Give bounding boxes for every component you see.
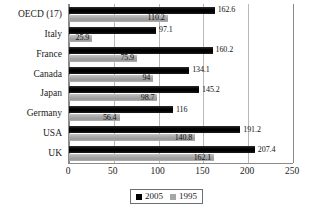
bar-group: 11656.4 xyxy=(69,103,293,123)
bar-track: 162.1 xyxy=(69,154,293,161)
bar-group: 97.125.9 xyxy=(69,24,293,44)
legend-swatch xyxy=(170,194,176,200)
x-axis-tick-labels: 050100150200250 xyxy=(0,165,319,179)
bar-track: 25.9 xyxy=(69,35,293,42)
bar-2005 xyxy=(69,106,173,113)
category-label: OECD (17) xyxy=(18,9,62,19)
bar-group: 207.4162.1 xyxy=(69,143,293,163)
bar-value-label: 75.9 xyxy=(120,54,134,62)
bar-track: 160.2 xyxy=(69,47,293,54)
category-axis-labels: OECD (17)ItalyFranceCanadaJapanGermanyUS… xyxy=(0,4,65,163)
bar-track: 75.9 xyxy=(69,55,293,62)
bar-2005 xyxy=(69,86,199,93)
bar-value-label: 162.6 xyxy=(218,6,236,14)
bar-value-label: 162.1 xyxy=(194,154,212,162)
legend-swatch xyxy=(136,194,142,200)
bar-track: 110.2 xyxy=(69,15,293,22)
bar-1995 xyxy=(69,154,214,161)
bar-value-label: 145.2 xyxy=(202,86,220,94)
bar-2005 xyxy=(69,67,189,74)
bar-value-label: 191.2 xyxy=(243,126,261,134)
bar-chart: 162.6110.297.125.9160.275.9134.194145.29… xyxy=(0,0,319,215)
bar-group: 162.6110.2 xyxy=(69,4,293,24)
x-tick-label: 50 xyxy=(108,165,118,177)
bar-1995 xyxy=(69,75,153,82)
category-label: USA xyxy=(43,128,62,138)
bar-track: 94 xyxy=(69,75,293,82)
category-label: France xyxy=(36,49,62,59)
bar-track: 145.2 xyxy=(69,86,293,93)
bar-track: 162.6 xyxy=(69,7,293,14)
bar-2005 xyxy=(69,146,255,153)
category-label: Germany xyxy=(27,108,62,118)
x-tick-label: 250 xyxy=(285,165,299,177)
bar-value-label: 56.4 xyxy=(103,114,117,122)
gridline-250 xyxy=(293,4,294,163)
bar-value-label: 160.2 xyxy=(216,46,234,54)
bar-value-label: 134.1 xyxy=(192,66,210,74)
bar-track: 56.4 xyxy=(69,114,293,121)
x-tick-label: 100 xyxy=(150,165,164,177)
plot-area: 162.6110.297.125.9160.275.9134.194145.29… xyxy=(68,4,293,164)
bar-track: 207.4 xyxy=(69,146,293,153)
bar-value-label: 140.8 xyxy=(175,134,193,142)
legend-label: 1995 xyxy=(179,192,197,201)
bar-group: 160.275.9 xyxy=(69,44,293,64)
bar-group: 134.194 xyxy=(69,64,293,84)
x-tick-label: 0 xyxy=(66,165,71,177)
category-label: Italy xyxy=(45,29,62,39)
legend-item: 2005 xyxy=(136,192,163,201)
bar-rows: 162.6110.297.125.9160.275.9134.194145.29… xyxy=(69,4,293,163)
bar-group: 191.2140.8 xyxy=(69,123,293,143)
bar-value-label: 97.1 xyxy=(159,26,173,34)
bar-2005 xyxy=(69,126,240,133)
bar-2005 xyxy=(69,7,215,14)
chart-legend: 20051995 xyxy=(130,189,203,204)
bar-group: 145.298.7 xyxy=(69,84,293,104)
category-label: UK xyxy=(48,148,62,158)
bar-value-label: 94 xyxy=(142,74,150,82)
bar-value-label: 207.4 xyxy=(258,146,276,154)
bar-value-label: 116 xyxy=(176,106,187,114)
bar-value-label: 25.9 xyxy=(76,34,90,42)
category-label: Japan xyxy=(40,88,62,98)
category-label: Canada xyxy=(34,69,63,79)
legend-item: 1995 xyxy=(170,192,197,201)
bar-value-label: 110.2 xyxy=(148,14,165,22)
bar-track: 134.1 xyxy=(69,67,293,74)
bar-track: 140.8 xyxy=(69,134,293,141)
x-tick-label: 200 xyxy=(240,165,254,177)
legend-label: 2005 xyxy=(145,192,163,201)
bar-value-label: 98.7 xyxy=(141,94,155,102)
bar-track: 98.7 xyxy=(69,94,293,101)
x-tick-label: 150 xyxy=(195,165,209,177)
bar-2005 xyxy=(69,47,213,54)
bar-track: 97.1 xyxy=(69,27,293,34)
